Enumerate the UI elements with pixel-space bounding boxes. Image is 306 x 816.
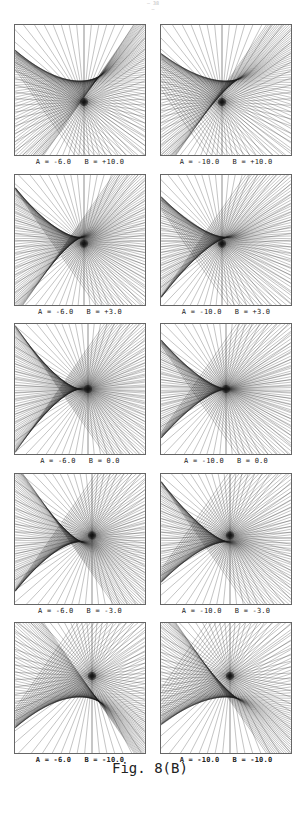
line-envelope-plot xyxy=(14,24,146,156)
line-family-svg xyxy=(15,623,145,753)
line-family-svg xyxy=(15,474,145,604)
plot-line xyxy=(15,53,145,121)
plot-line xyxy=(161,324,228,393)
plot-line xyxy=(15,514,145,565)
plot-line xyxy=(161,43,291,132)
plot-line xyxy=(228,474,292,539)
line-family-svg xyxy=(161,324,291,454)
plot-line xyxy=(15,67,145,97)
page-number: — 38 — xyxy=(145,0,161,12)
plot-line xyxy=(15,38,145,149)
panel-caption: A = -6.0 B = -3.0 xyxy=(14,607,146,615)
plot-line xyxy=(161,191,291,280)
plot-line xyxy=(225,324,292,393)
line-family-svg xyxy=(161,623,291,753)
plot-line xyxy=(161,506,291,579)
line-envelope-plot xyxy=(160,473,292,605)
plot-line xyxy=(161,200,291,273)
plot-line xyxy=(15,637,145,737)
plot-line xyxy=(161,681,291,711)
plot-line xyxy=(161,645,291,724)
plot-line xyxy=(220,99,292,155)
plot-line xyxy=(15,623,95,679)
line-family-svg xyxy=(161,175,291,305)
plot-line xyxy=(85,386,145,454)
plot-line xyxy=(218,101,291,155)
line-family-svg xyxy=(161,25,291,155)
plot-line xyxy=(225,385,292,454)
panel-caption: A = -6.0 B = 0.0 xyxy=(14,457,146,465)
plot-line xyxy=(230,474,249,539)
plot-line xyxy=(161,385,228,454)
panel-caption: A = -10.0 B = -3.0 xyxy=(160,607,292,615)
panel-caption: A = -10.0 B = +10.0 xyxy=(160,158,292,166)
plot-line xyxy=(85,324,145,392)
plot-line xyxy=(15,25,87,105)
plot-line xyxy=(161,499,291,588)
line-family-svg xyxy=(15,25,145,155)
plot-line xyxy=(90,623,146,679)
plot-line xyxy=(15,55,145,117)
line-envelope-plot xyxy=(14,174,146,306)
plot-line xyxy=(91,623,145,680)
panel-caption: A = -10.0 B = 0.0 xyxy=(160,457,292,465)
plot-line xyxy=(89,623,145,679)
plot-line xyxy=(15,324,91,392)
plot-line xyxy=(15,386,91,454)
plot-line xyxy=(15,474,96,537)
line-family-svg xyxy=(15,175,145,305)
line-family-svg xyxy=(15,324,145,454)
plot-line xyxy=(15,41,145,141)
plot-line xyxy=(161,623,233,679)
plot-line xyxy=(227,623,291,679)
figure-title: Fig. 8(B) xyxy=(112,760,188,776)
line-envelope-plot xyxy=(160,24,292,156)
line-envelope-plot xyxy=(14,473,146,605)
panel-caption: A = -6.0 B = +3.0 xyxy=(14,308,146,316)
panel-caption: A = -10.0 B = +3.0 xyxy=(160,308,292,316)
line-envelope-plot xyxy=(160,323,292,455)
line-envelope-plot xyxy=(160,174,292,306)
line-envelope-plot xyxy=(14,622,146,754)
line-envelope-plot xyxy=(14,323,146,455)
plot-line xyxy=(80,102,145,112)
panel-caption: A = -6.0 B = +10.0 xyxy=(14,158,146,166)
line-envelope-plot xyxy=(160,622,292,754)
line-family-svg xyxy=(161,474,291,604)
plot-line xyxy=(161,240,224,305)
plot-line xyxy=(161,646,291,735)
plot-line xyxy=(221,98,278,155)
plot-line xyxy=(15,67,145,155)
plot-line xyxy=(65,240,84,305)
